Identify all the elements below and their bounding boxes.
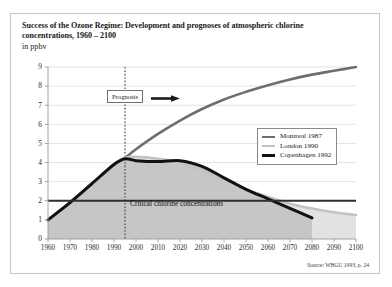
legend-swatch-icon [262, 136, 275, 138]
legend-swatch-icon [262, 154, 275, 157]
y-tick-label: 7 [28, 102, 42, 109]
legend-label: London 1990 [280, 143, 318, 151]
prognosis-label: Prognosis [107, 90, 143, 103]
x-tick-label: 2100 [341, 245, 371, 252]
chart-subtitle: in ppbv [22, 42, 47, 51]
legend-swatch-icon [262, 145, 275, 147]
prognosis-arrow-icon [151, 95, 181, 102]
y-tick-label: 0 [28, 235, 42, 242]
y-tick-label: 9 [28, 63, 42, 70]
critical-concentration-label: Critical chlorine concentrations [130, 200, 223, 208]
legend-item[interactable]: Montreal 1987 [262, 132, 331, 142]
legend-item[interactable]: London 1990 [262, 142, 331, 152]
y-tick-label: 1 [28, 216, 42, 223]
chart-legend: Montreal 1987London 1990Copenhagen 1992 [257, 128, 337, 165]
legend-label: Copenhagen 1992 [280, 152, 331, 160]
chart-figure: Success of the Ozone Regime: Development… [10, 13, 380, 274]
y-tick-label: 4 [28, 159, 42, 166]
y-tick-label: 8 [28, 82, 42, 89]
chart-title: Success of the Ozone Regime: Development… [22, 21, 352, 41]
y-tick-label: 2 [28, 197, 42, 204]
y-tick-label: 5 [28, 140, 42, 147]
chart-source: Source: WBGU 1993, p. 24 [307, 262, 369, 268]
y-tick-label: 6 [28, 121, 42, 128]
y-tick-label: 3 [28, 178, 42, 185]
legend-label: Montreal 1987 [280, 133, 322, 141]
legend-item[interactable]: Copenhagen 1992 [262, 151, 331, 161]
